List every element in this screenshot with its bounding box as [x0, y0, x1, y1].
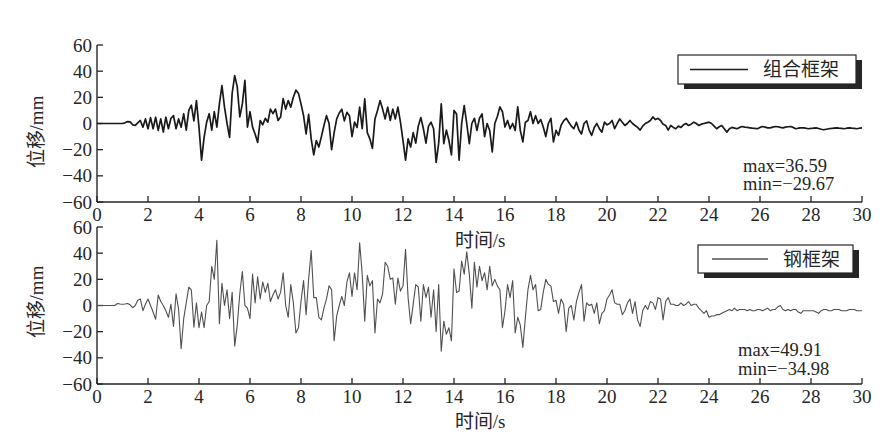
y-tick-label: −20 [62, 321, 92, 342]
x-tick-label: 12 [394, 386, 413, 407]
max-annotation: max=36.59 [743, 156, 827, 176]
x-tick-label: 26 [751, 386, 770, 407]
x-tick-label: 8 [296, 386, 306, 407]
y-tick-label: 60 [73, 217, 92, 238]
x-tick-label: 22 [649, 386, 668, 407]
x-tick-label: 10 [343, 204, 362, 225]
y-tick-label: −20 [62, 139, 92, 160]
y-tick-label: 20 [73, 87, 92, 108]
x-tick-label: 6 [245, 386, 255, 407]
x-tick-label: 4 [194, 204, 204, 225]
y-tick-label: 40 [73, 243, 92, 264]
y-axis-label: 位移/mm [26, 95, 47, 168]
legend: 钢框架 [698, 245, 859, 278]
x-tick-label: 30 [853, 386, 872, 407]
x-tick-label: 16 [496, 204, 515, 225]
x-tick-label: 6 [245, 204, 255, 225]
x-tick-label: 20 [598, 386, 617, 407]
x-tick-label: 26 [751, 204, 770, 225]
y-tick-label: 0 [83, 295, 93, 316]
x-tick-label: 18 [547, 386, 566, 407]
x-tick-label: 16 [496, 386, 515, 407]
x-tick-label: 14 [445, 204, 465, 225]
x-tick-label: 8 [296, 204, 306, 225]
legend-label: 钢框架 [783, 249, 840, 270]
x-tick-label: 28 [802, 204, 821, 225]
y-tick-label: 60 [73, 35, 92, 56]
x-tick-label: 28 [802, 386, 821, 407]
x-tick-label: 14 [445, 386, 465, 407]
y-tick-label: −40 [62, 347, 92, 368]
x-tick-label: 0 [92, 386, 102, 407]
x-tick-label: 4 [194, 386, 204, 407]
y-tick-label: 40 [73, 61, 92, 82]
x-tick-label: 2 [143, 204, 153, 225]
x-tick-label: 22 [649, 204, 668, 225]
x-tick-label: 20 [598, 204, 617, 225]
min-annotation: min=−34.98 [738, 359, 829, 379]
legend-label: 组合框架 [763, 59, 839, 80]
max-annotation: max=49.91 [738, 340, 822, 360]
y-tick-label: 20 [73, 269, 92, 290]
x-axis-label: 时间/s [455, 411, 506, 432]
x-tick-label: 2 [143, 386, 153, 407]
x-axis-label: 时间/s [455, 230, 506, 251]
y-tick-label: 0 [83, 113, 93, 134]
y-tick-label: −40 [62, 165, 92, 186]
x-tick-label: 12 [394, 204, 413, 225]
y-tick-label: −60 [62, 374, 92, 395]
x-tick-label: 24 [700, 204, 720, 225]
x-tick-label: 30 [853, 204, 872, 225]
x-tick-label: 10 [343, 386, 362, 407]
min-annotation: min=−29.67 [743, 174, 834, 194]
y-axis-label: 位移/mm [26, 265, 47, 338]
figure: −60−40−200204060024681012141618202224262… [0, 0, 896, 448]
x-tick-label: 18 [547, 204, 566, 225]
legend: 组合框架 [678, 55, 862, 89]
y-tick-label: −60 [62, 192, 92, 213]
x-tick-label: 0 [92, 204, 102, 225]
x-tick-label: 24 [700, 386, 720, 407]
